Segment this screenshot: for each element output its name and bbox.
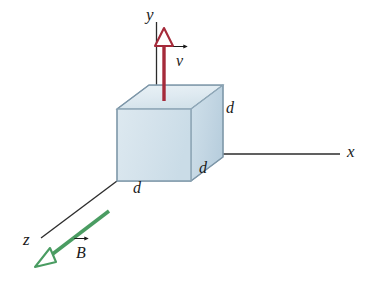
velocity-vector-arrowhead (155, 28, 173, 46)
axis-label-z: z (23, 231, 30, 248)
cube-solid (117, 85, 223, 181)
figure-canvas: y x z d d d v B (0, 0, 371, 282)
axis-label-y: y (146, 6, 154, 23)
magnetic-field-vector (35, 211, 109, 267)
axis-label-x: x (347, 143, 355, 160)
velocity-vector-label-group: v (176, 52, 183, 70)
cube-face-front (117, 109, 191, 181)
velocity-vector-label: v (176, 53, 183, 69)
cube-dimension-label-height: d (226, 100, 234, 116)
cube-dimension-label-depth: d (199, 160, 207, 176)
physics-diagram-svg (0, 0, 371, 282)
magnetic-field-vector-arrowhead (35, 248, 56, 267)
magnetic-field-vector-label: B (76, 245, 86, 261)
magnetic-field-vector-label-group: B (76, 244, 86, 262)
axis-z-line (41, 181, 117, 238)
cube-dimension-label-width: d (133, 180, 141, 196)
